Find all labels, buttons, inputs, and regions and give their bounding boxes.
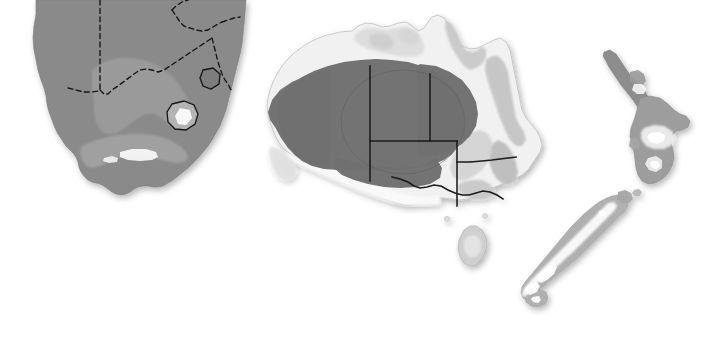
map-canvas [0, 0, 712, 355]
distribution-map-figure [0, 0, 712, 355]
panel-new-zealand [521, 50, 690, 307]
bass-strait-island-king [444, 216, 449, 221]
panel-southern-africa [33, 0, 246, 195]
eswatini-enclave [200, 68, 220, 89]
panel-australia [267, 15, 542, 266]
cook-strait-island [632, 189, 642, 196]
bass-strait-island-flinders [483, 214, 488, 219]
